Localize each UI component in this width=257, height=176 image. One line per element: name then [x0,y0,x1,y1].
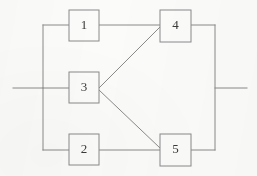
block-5-label: 5 [172,141,179,156]
block-3[interactable]: 3 [69,72,99,103]
block-1-label: 1 [81,17,88,32]
block-2-label: 2 [81,141,88,156]
block-2[interactable]: 2 [69,134,99,165]
connection-block-3-to-block-5 [99,90,160,148]
connections-layer [13,25,247,150]
reliability-block-diagram: 1 3 2 4 5 [0,0,257,176]
diagram-canvas: 1 3 2 4 5 [0,0,257,176]
block-5[interactable]: 5 [160,134,191,166]
block-1[interactable]: 1 [69,10,99,41]
block-3-label: 3 [81,79,88,94]
block-4-label: 4 [172,17,179,32]
block-4[interactable]: 4 [160,10,191,42]
blocks-layer: 1 3 2 4 5 [69,10,191,166]
connection-block-3-to-block-4 [99,27,160,88]
